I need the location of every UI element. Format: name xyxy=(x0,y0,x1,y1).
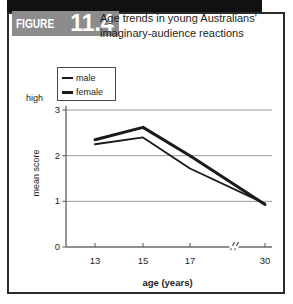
y-tick-label: 2 xyxy=(20,150,60,161)
chart-legend: male female xyxy=(57,67,116,101)
legend-swatch-male-icon xyxy=(62,77,73,79)
y-tick-label: 3 xyxy=(20,104,60,115)
y-tick-label: 0 xyxy=(20,241,60,252)
x-tick-label: 13 xyxy=(80,255,110,266)
x-tick-label: 17 xyxy=(175,255,205,266)
legend-item-male: male xyxy=(62,71,115,85)
figure-panel: FIGURE 11.4 Age trends in young Australi… xyxy=(0,0,293,304)
figure-badge-word: FIGURE xyxy=(12,16,57,31)
legend-label-male: male xyxy=(76,73,96,83)
legend-swatch-female-icon xyxy=(62,91,73,94)
x-axis-title: age (years) xyxy=(60,277,275,288)
legend-label-female: female xyxy=(76,87,103,97)
x-tick-label: 15 xyxy=(128,255,158,266)
figure-title: Age trends in young Australians' imagina… xyxy=(100,11,275,40)
x-tick-label: 30 xyxy=(250,255,280,266)
y-axis-high-label: high xyxy=(26,93,43,103)
y-tick-label: 1 xyxy=(20,195,60,206)
legend-item-female: female xyxy=(62,85,115,99)
